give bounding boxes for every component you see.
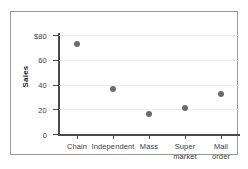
- gridline-60: [59, 60, 239, 61]
- y-tick-label-40: 40: [23, 81, 47, 90]
- x-tick-mark-chain: [77, 135, 78, 139]
- data-point-independent: [110, 86, 116, 92]
- x-tick-label-independent: Independent: [92, 142, 135, 152]
- chart-figure: Sales $80 60 40 20 0 Chain: [0, 0, 248, 169]
- chart-frame: Sales $80 60 40 20 0 Chain: [10, 11, 238, 155]
- y-tick-label-60: 60: [23, 56, 47, 65]
- x-tick-label-line: market: [173, 152, 197, 162]
- data-point-super-market: [182, 105, 188, 111]
- x-tick-label-line: Independent: [92, 142, 135, 152]
- x-tick-label-line: order: [212, 152, 230, 162]
- data-point-mass: [146, 111, 152, 117]
- x-tick-label-chain: Chain: [67, 142, 87, 152]
- y-tick-label-0: 0: [23, 131, 47, 140]
- x-tick-label-line: Super: [173, 142, 197, 152]
- x-tick-label-super-market: Super market: [173, 142, 197, 161]
- x-tick-label-mass: Mass: [140, 142, 158, 152]
- x-tick-label-mail-order: Mail order: [212, 142, 230, 161]
- data-point-mail-order: [218, 91, 224, 97]
- x-tick-mark-independent: [113, 135, 114, 139]
- x-tick-label-line: Mass: [140, 142, 158, 152]
- plot-area: [59, 35, 239, 134]
- gridline-40: [59, 85, 239, 86]
- data-point-chain: [74, 41, 80, 47]
- x-tick-mark-mail-order: [221, 135, 222, 139]
- x-tick-mark-mass: [149, 135, 150, 139]
- y-tick-label-20: 20: [23, 106, 47, 115]
- x-tick-label-line: Mail: [212, 142, 230, 152]
- y-tick-label-80: $80: [23, 32, 47, 41]
- x-tick-label-line: Chain: [67, 142, 87, 152]
- gridline-80: [59, 35, 239, 36]
- x-tick-mark-super-market: [185, 135, 186, 139]
- gridline-20: [59, 109, 239, 110]
